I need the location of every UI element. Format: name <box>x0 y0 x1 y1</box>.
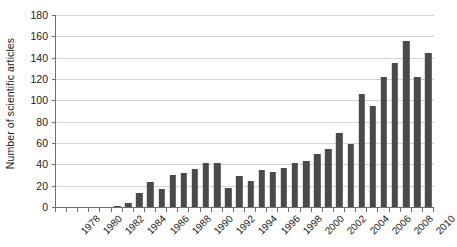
bar-slot <box>378 15 389 207</box>
x-axis-tick-mark <box>344 208 345 212</box>
x-axis-tick-label: 1994 <box>256 213 280 237</box>
bar-slot <box>78 15 89 207</box>
bar[interactable] <box>181 173 187 207</box>
x-axis-tick-mark <box>88 208 89 212</box>
bar-slot <box>178 15 189 207</box>
bar-slot <box>301 15 312 207</box>
x-axis-tick-mark <box>55 208 56 212</box>
bar-slot <box>156 15 167 207</box>
bar-slot <box>390 15 401 207</box>
bar[interactable] <box>347 144 353 207</box>
bar[interactable] <box>292 163 298 207</box>
x-axis-tick-mark <box>66 208 67 212</box>
y-axis-tick-label: 180 <box>22 10 48 20</box>
bar[interactable] <box>247 181 253 207</box>
bar[interactable] <box>192 169 198 207</box>
bar[interactable] <box>158 189 164 207</box>
x-axis-tick-mark <box>266 208 267 212</box>
y-axis-tick-label: 80 <box>22 117 48 127</box>
bar[interactable] <box>258 170 264 207</box>
y-axis-tick-label: 60 <box>22 138 48 148</box>
x-axis-tick-label: 2000 <box>323 213 347 237</box>
bar-slot <box>312 15 323 207</box>
bar[interactable] <box>236 176 242 207</box>
y-axis-tick-label: 160 <box>22 31 48 41</box>
x-axis-tick-mark <box>177 208 178 212</box>
x-axis-tick-mark <box>166 208 167 212</box>
bar[interactable] <box>336 133 342 207</box>
x-axis-tick-mark <box>422 208 423 212</box>
bar[interactable] <box>114 206 120 207</box>
bars-series <box>56 15 434 207</box>
x-axis-tick-label: 2002 <box>345 213 369 237</box>
x-axis-tick-mark <box>366 208 367 212</box>
bar[interactable] <box>170 175 176 207</box>
y-axis-tick-labels: 020406080100120140160180 <box>20 0 48 247</box>
bar-slot <box>289 15 300 207</box>
x-axis-tick-mark <box>333 208 334 212</box>
bar[interactable] <box>392 63 398 207</box>
x-axis-tick-label: 1990 <box>211 213 235 237</box>
x-axis-tick-mark <box>77 208 78 212</box>
bar[interactable] <box>370 106 376 207</box>
y-axis-tick-label: 120 <box>22 74 48 84</box>
x-axis-tick-label: 2010 <box>434 213 457 237</box>
bar[interactable] <box>414 77 420 207</box>
bar-slot <box>134 15 145 207</box>
bar[interactable] <box>136 193 142 207</box>
bar[interactable] <box>203 163 209 207</box>
bar-slot <box>356 15 367 207</box>
bar-slot <box>167 15 178 207</box>
x-axis-tick-label: 1984 <box>145 213 169 237</box>
y-axis-tick-label: 40 <box>22 159 48 169</box>
x-axis-tick-mark <box>311 208 312 212</box>
x-axis-tick-mark <box>288 208 289 212</box>
bar[interactable] <box>125 203 131 207</box>
x-axis-tick-label: 1996 <box>278 213 302 237</box>
x-axis-tick-mark <box>188 208 189 212</box>
y-axis-tick-label: 100 <box>22 95 48 105</box>
y-axis-title: Number of scientific articles <box>3 0 17 207</box>
bar-slot <box>245 15 256 207</box>
bar-slot <box>401 15 412 207</box>
bar[interactable] <box>225 188 231 207</box>
bar-slot <box>67 15 78 207</box>
x-axis-tick-mark <box>122 208 123 212</box>
bar-slot <box>334 15 345 207</box>
bar-slot <box>267 15 278 207</box>
x-axis-tick-mark <box>99 208 100 212</box>
x-axis-tick-mark <box>144 208 145 212</box>
bar-slot <box>367 15 378 207</box>
bar-slot <box>56 15 67 207</box>
x-axis-tick-mark <box>133 208 134 212</box>
bar[interactable] <box>381 77 387 207</box>
bar[interactable] <box>270 172 276 207</box>
bar[interactable] <box>214 163 220 207</box>
bar[interactable] <box>359 94 365 207</box>
x-axis-tick-label: 1978 <box>78 213 102 237</box>
x-axis-tick-label: 1982 <box>123 213 147 237</box>
x-axis-tick-label: 1980 <box>100 213 124 237</box>
y-axis-tick-label: 20 <box>22 181 48 191</box>
x-axis-tick-label: 2006 <box>389 213 413 237</box>
x-axis-tick-label: 2004 <box>367 213 391 237</box>
x-axis-tick-mark <box>300 208 301 212</box>
bar[interactable] <box>425 53 431 207</box>
x-axis-tick-mark <box>377 208 378 212</box>
bar[interactable] <box>147 182 153 207</box>
bar[interactable] <box>403 41 409 207</box>
x-axis-tick-labels: 1978198019821984198619881990199219941996… <box>55 213 449 247</box>
bar[interactable] <box>325 149 331 207</box>
bar-slot <box>223 15 234 207</box>
bar[interactable] <box>314 154 320 207</box>
x-axis-tick-mark <box>433 208 434 212</box>
x-axis-tick-mark <box>222 208 223 212</box>
bar[interactable] <box>303 161 309 207</box>
bar-slot <box>256 15 267 207</box>
bar[interactable] <box>281 168 287 207</box>
x-axis-tick-label: 2008 <box>412 213 436 237</box>
bar-slot <box>212 15 223 207</box>
x-axis-tick-mark <box>411 208 412 212</box>
bar-slot <box>145 15 156 207</box>
